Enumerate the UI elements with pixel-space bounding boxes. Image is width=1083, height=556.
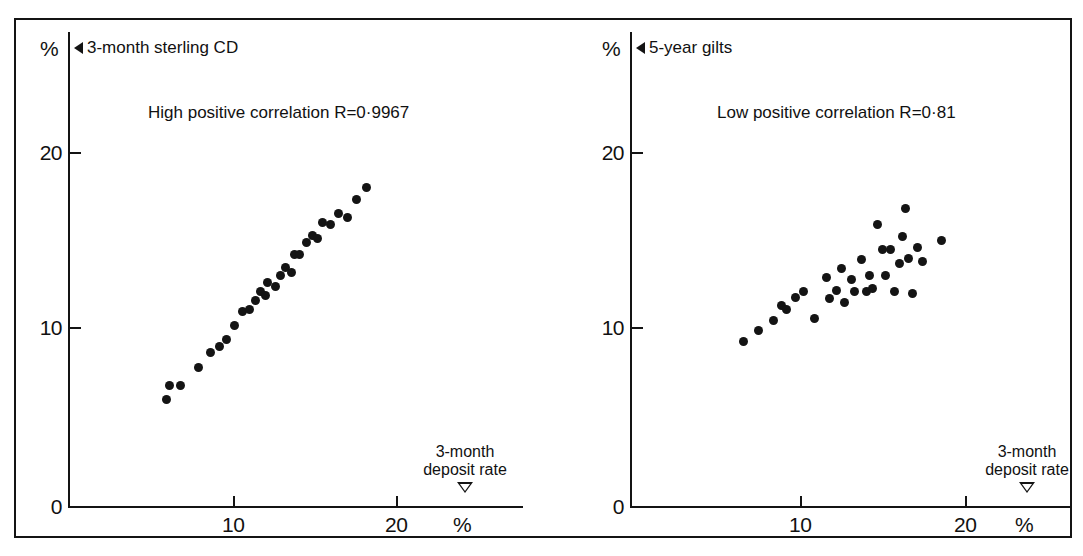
scatter-point	[206, 348, 215, 357]
x-axis-title-line1-right: 3-month	[967, 443, 1083, 461]
scatter-point	[263, 278, 272, 287]
scatter-point	[313, 234, 322, 243]
x-tick-label-20-left: 20	[385, 514, 407, 535]
y-axis-line-left	[68, 32, 70, 508]
series-caption-text: 3-month sterling CD	[87, 38, 238, 57]
scatter-point	[343, 213, 352, 222]
scatter-point	[895, 259, 904, 268]
scatter-point	[908, 289, 917, 298]
x-tick-10-right	[800, 496, 802, 507]
scatter-point	[165, 381, 174, 390]
y-axis-unit-label-right: %	[602, 38, 621, 59]
axis-pointer-icon-left	[457, 482, 473, 493]
y-tick-label-0-right: 0	[582, 496, 624, 517]
scatter-point	[822, 273, 831, 282]
correlation-note-left: High positive correlation R=0·9967	[148, 103, 409, 122]
y-tick-label-20-left: 20	[20, 142, 62, 163]
scatter-point	[862, 287, 871, 296]
scatter-point	[878, 245, 887, 254]
scatter-point	[832, 286, 841, 295]
triangle-left-marker-icon	[636, 42, 645, 54]
x-axis-title-line2-right: deposit rate	[967, 461, 1083, 479]
y-tick-20-left	[70, 152, 81, 154]
scatter-point	[326, 220, 335, 229]
triangle-left-marker-icon	[74, 42, 83, 54]
scatter-point	[251, 296, 260, 305]
scatter-point	[261, 291, 270, 300]
scatter-point	[865, 271, 874, 280]
x-axis-line-left	[68, 506, 523, 508]
scatter-point	[799, 287, 808, 296]
y-tick-label-20-right: 20	[582, 142, 624, 163]
scatter-point	[352, 195, 361, 204]
y-axis-unit-label-left: %	[40, 38, 59, 59]
chart-panel-left: 20 10 0 10 20 % 3-month sterling CD High…	[0, 0, 541, 556]
x-axis-title-line2-left: deposit rate	[405, 461, 525, 479]
scatter-point	[890, 287, 899, 296]
scatter-point	[162, 395, 171, 404]
scatter-point	[318, 218, 327, 227]
y-tick-label-10-left: 10	[20, 317, 62, 338]
y-axis-line-right	[630, 32, 632, 508]
series-caption-right: 5-year gilts	[636, 38, 732, 57]
scatter-point	[281, 263, 290, 272]
scatter-point	[810, 314, 819, 323]
scatter-point	[287, 268, 296, 277]
scatter-point	[769, 316, 778, 325]
scatter-point	[256, 287, 265, 296]
scatter-point	[918, 257, 927, 266]
scatter-point	[913, 243, 922, 252]
scatter-point	[176, 381, 185, 390]
scatter-point	[754, 326, 763, 335]
figure-canvas: 20 10 0 10 20 % 3-month sterling CD High…	[0, 0, 1083, 556]
scatter-point	[873, 220, 882, 229]
scatter-point	[238, 307, 247, 316]
series-caption-text: 5-year gilts	[649, 38, 732, 57]
x-axis-unit-label-left: %	[453, 514, 472, 535]
scatter-point	[901, 204, 910, 213]
scatter-point	[886, 245, 895, 254]
x-tick-label-10-left: 10	[222, 514, 244, 535]
scatter-point	[271, 282, 280, 291]
axis-pointer-icon-right	[1019, 482, 1035, 493]
scatter-point	[302, 238, 311, 247]
scatter-point	[868, 284, 877, 293]
scatter-point	[245, 305, 254, 314]
scatter-point	[215, 342, 224, 351]
scatter-point	[898, 232, 907, 241]
scatter-point	[847, 275, 856, 284]
scatter-point	[362, 183, 371, 192]
y-tick-10-right	[632, 327, 643, 329]
scatter-point	[791, 293, 800, 302]
x-tick-10-left	[233, 496, 235, 507]
y-tick-10-left	[70, 327, 81, 329]
x-tick-label-20-right: 20	[954, 514, 976, 535]
scatter-point	[295, 250, 304, 259]
scatter-point	[290, 250, 299, 259]
y-tick-label-10-right: 10	[582, 317, 624, 338]
scatter-point	[276, 271, 285, 280]
x-axis-title-line1-left: 3-month	[405, 443, 525, 461]
scatter-point	[840, 298, 849, 307]
x-tick-20-left	[396, 496, 398, 507]
scatter-point	[222, 335, 231, 344]
scatter-point	[825, 294, 834, 303]
scatter-point	[308, 231, 317, 240]
scatter-point	[230, 321, 239, 330]
x-tick-20-right	[965, 496, 967, 507]
scatter-point	[881, 271, 890, 280]
scatter-point	[850, 287, 859, 296]
x-axis-line-right	[630, 506, 1072, 508]
scatter-point	[857, 255, 866, 264]
chart-panel-right: 20 10 0 10 20 % 5-year gilts Low positiv…	[562, 0, 1083, 556]
correlation-note-right: Low positive correlation R=0·81	[717, 103, 956, 122]
scatter-point	[739, 337, 748, 346]
x-tick-label-10-right: 10	[789, 514, 811, 535]
scatter-point	[334, 209, 343, 218]
scatter-point	[937, 236, 946, 245]
scatter-point	[782, 305, 791, 314]
y-tick-20-right	[632, 152, 643, 154]
scatter-point	[777, 301, 786, 310]
y-tick-label-0-left: 0	[20, 496, 62, 517]
x-axis-unit-label-right: %	[1015, 514, 1034, 535]
